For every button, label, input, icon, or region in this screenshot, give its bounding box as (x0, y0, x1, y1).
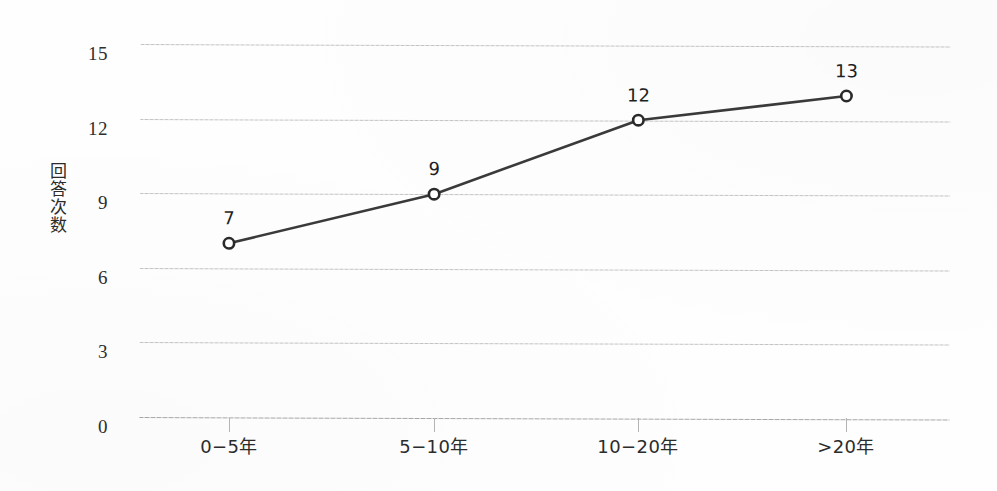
data-point-marker-1[interactable] (429, 189, 439, 199)
y-tick-label-3: 3 (68, 342, 108, 361)
data-point-label-1: 9 (428, 160, 440, 178)
x-tick-label-2: 10−20年 (597, 432, 678, 458)
data-series (121, 44, 950, 420)
y-tick-label-0: 0 (68, 417, 108, 436)
y-tick-label-9: 9 (68, 193, 108, 212)
y-axis-tick-labels: 03691215 (62, 44, 108, 417)
data-point-label-2: 12 (627, 86, 650, 104)
x-tick-label-1: 5−10年 (399, 432, 468, 458)
data-point-marker-0[interactable] (224, 238, 234, 248)
plot-area: 791213 (122, 44, 950, 417)
x-axis-tick-labels: 0−5年5−10年10−20年>20年 (122, 432, 950, 466)
y-tick-label-6: 6 (68, 268, 108, 287)
x-tick-label-3: >20年 (817, 432, 875, 458)
y-tick-label-15: 15 (68, 44, 108, 63)
data-point-label-0: 7 (223, 209, 235, 227)
x-tick-3 (846, 418, 847, 432)
data-point-label-3: 13 (835, 62, 858, 80)
series-line (229, 94, 846, 245)
x-tick-0 (229, 418, 230, 432)
x-tick-2 (638, 418, 639, 432)
line-chart: 回 答 次 数 03691215 791213 0−5年5−10年10−20年>… (0, 0, 997, 491)
x-tick-1 (434, 418, 435, 432)
y-tick-label-12: 12 (68, 119, 108, 138)
x-tick-label-0: 0−5年 (200, 432, 258, 458)
data-point-marker-3[interactable] (841, 91, 851, 101)
data-point-marker-2[interactable] (633, 115, 643, 125)
